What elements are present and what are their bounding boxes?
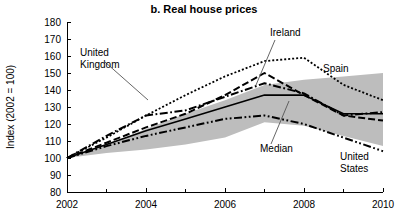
figure-container: b. Real house prices 8090100110120130140… — [0, 0, 409, 224]
annotation-label-united-kingdom: United — [80, 47, 109, 58]
y-tick-label: 80 — [50, 187, 62, 198]
annotation-label-ireland: Ireland — [270, 27, 301, 38]
annotation-label-median: Median — [260, 143, 293, 154]
x-tick-label: 2010 — [372, 199, 395, 210]
y-tick-label: 170 — [44, 34, 61, 45]
annotation-label-united-states-line2: States — [340, 163, 368, 174]
y-tick-label: 100 — [44, 153, 61, 164]
x-tick-label: 2008 — [293, 199, 316, 210]
annotation-united-states: UnitedStates — [340, 151, 369, 174]
x-tick-label: 2004 — [135, 199, 158, 210]
annotation-spain: Spain — [323, 63, 349, 74]
y-tick-label: 130 — [44, 102, 61, 113]
annotation-label-united-kingdom-line2: Kingdom — [80, 59, 119, 70]
y-tick-label: 110 — [45, 136, 61, 147]
real-house-prices-chart: b. Real house prices 8090100110120130140… — [0, 0, 409, 224]
annotation-label-united-states: United — [340, 151, 369, 162]
y-tick-label: 120 — [44, 119, 61, 130]
chart-title: b. Real house prices — [151, 3, 258, 15]
y-axis-title: Index (2002 = 100) — [5, 65, 16, 149]
annotation-label-spain: Spain — [323, 63, 349, 74]
x-tick-label: 2006 — [214, 199, 237, 210]
y-tick-label: 140 — [44, 85, 61, 96]
y-tick-label: 160 — [44, 51, 61, 62]
x-tick-label: 2002 — [56, 199, 79, 210]
y-tick-label: 180 — [44, 17, 61, 28]
y-tick-label: 90 — [50, 170, 62, 181]
y-tick-label: 150 — [44, 68, 61, 79]
